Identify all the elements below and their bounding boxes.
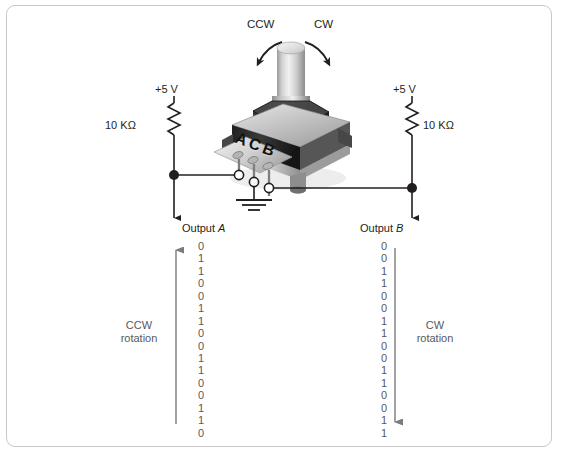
bit-value: 0 xyxy=(373,240,395,252)
bit-value: 1 xyxy=(190,402,212,414)
bit-value: 1 xyxy=(373,315,395,327)
bit-value: 1 xyxy=(190,414,212,426)
cw-direction-label: CW xyxy=(314,18,333,30)
left-resistor-label: 10 KΩ xyxy=(105,119,136,131)
ccw-direction-label: CCW xyxy=(247,18,274,30)
bit-value: 0 xyxy=(373,252,395,264)
bit-value: 1 xyxy=(373,327,395,339)
bit-value: 0 xyxy=(373,340,395,352)
bit-value: 1 xyxy=(190,265,212,277)
bit-value: 1 xyxy=(373,377,395,389)
output-b-name: B xyxy=(396,222,403,234)
right-supply-label: +5 V xyxy=(393,83,416,95)
bit-value: 0 xyxy=(373,352,395,364)
cw-rotation-caption-line1: CW xyxy=(404,319,466,332)
bit-value: 0 xyxy=(190,277,212,289)
bit-value: 1 xyxy=(373,364,395,376)
bit-value: 0 xyxy=(190,340,212,352)
bit-value: 0 xyxy=(373,290,395,302)
bit-value: 0 xyxy=(190,290,212,302)
bit-value: 0 xyxy=(190,240,212,252)
bit-value: 1 xyxy=(373,414,395,426)
bit-value: 0 xyxy=(190,389,212,401)
circuit-vector-layer xyxy=(0,0,575,458)
bit-value: 0 xyxy=(190,427,212,439)
output-a-prefix: Output xyxy=(182,222,218,234)
cw-rotation-caption-line2: rotation xyxy=(404,332,466,345)
left-supply-label: +5 V xyxy=(155,83,178,95)
output-a-label: Output A xyxy=(182,222,225,234)
bit-value: 1 xyxy=(373,427,395,439)
output-b-prefix: Output xyxy=(360,222,396,234)
bit-value: 1 xyxy=(190,315,212,327)
output-b-bit-column: 0011001100110011 xyxy=(373,240,395,439)
bit-value: 0 xyxy=(190,377,212,389)
right-resistor-label: 10 KΩ xyxy=(423,119,454,131)
bit-value: 0 xyxy=(190,327,212,339)
output-a-bit-column: 0110011001100110 xyxy=(190,240,212,439)
bit-value: 1 xyxy=(190,252,212,264)
bit-value: 1 xyxy=(190,364,212,376)
figure-root: CCW CW ACB +5 V 10 KΩ Output A CCW rotat… xyxy=(0,0,575,458)
output-a-name: A xyxy=(218,222,225,234)
bit-value: 0 xyxy=(373,302,395,314)
bit-value: 0 xyxy=(373,389,395,401)
ccw-rotation-caption-line1: CCW xyxy=(108,319,170,332)
bit-value: 0 xyxy=(373,402,395,414)
bit-value: 1 xyxy=(190,302,212,314)
bit-value: 1 xyxy=(373,265,395,277)
bit-value: 1 xyxy=(373,277,395,289)
cw-rotation-arrow xyxy=(305,42,328,62)
output-b-label: Output B xyxy=(360,222,403,234)
ccw-rotation-caption-line2: rotation xyxy=(108,332,170,345)
bit-value: 1 xyxy=(190,352,212,364)
